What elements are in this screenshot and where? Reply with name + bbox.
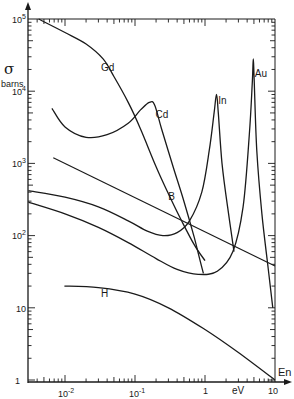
y-tick-1e3: 103 [2, 157, 26, 169]
axes [25, 2, 292, 385]
y-axis-unit: barns [1, 80, 24, 89]
x-axis-arrow-icon [284, 379, 292, 385]
curve-label-gd: Gd [101, 63, 114, 73]
curve-label-au: Au [255, 69, 267, 79]
x-tick-1e-2: 10-2 [58, 387, 74, 399]
x-tick-1e-1: 10-1 [129, 387, 145, 399]
x-tick-10: 10 [268, 387, 278, 396]
curve-label-b: B [168, 192, 175, 202]
curve-au [28, 59, 272, 308]
y-axis-symbol: σ [4, 62, 14, 77]
y-axis-arrow-icon [25, 2, 31, 10]
curves [28, 19, 275, 380]
y-tick-10: 10 [2, 302, 26, 314]
curve-gd [39, 19, 205, 261]
tick-marks [28, 19, 275, 382]
x-axis-symbol: En [278, 367, 291, 378]
cross-section-chart [0, 0, 294, 399]
x-axis-label: eV [232, 386, 244, 396]
curve-label-h: H [101, 289, 108, 299]
y-tick-1e5: 105 [2, 13, 26, 25]
curve-label-in: In [218, 96, 226, 106]
curve-cd [52, 102, 204, 274]
curve-h [64, 286, 275, 380]
y-tick-1: 1 [0, 377, 20, 386]
x-tick-1: 1 [203, 387, 208, 396]
curve-in [28, 95, 234, 252]
y-tick-1e2: 102 [2, 229, 26, 241]
curve-label-cd: Cd [156, 110, 169, 120]
